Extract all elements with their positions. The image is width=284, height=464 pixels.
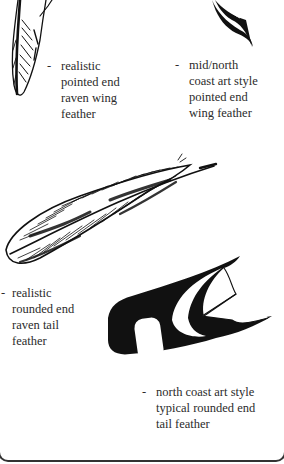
label-line: typical rounded end — [156, 400, 255, 416]
realistic-wing-feather-icon — [12, 0, 52, 95]
label-dash: - — [175, 57, 179, 73]
label-realistic-rounded-tail: - realistic rounded end raven tail feath… — [12, 285, 74, 349]
label-line: feather — [61, 106, 120, 122]
label-line: mid/north — [189, 57, 258, 73]
label-line: realistic — [12, 285, 74, 301]
label-line: north coast art style — [156, 384, 255, 400]
label-line: realistic — [61, 58, 120, 74]
label-line: pointed end — [61, 74, 120, 90]
label-line: rounded end — [12, 301, 74, 317]
label-dash: - — [142, 384, 146, 400]
page-frame-border — [0, 420, 284, 462]
label-line: wing feather — [189, 105, 258, 121]
label-line: feather — [12, 333, 74, 349]
label-line: coast art style — [189, 73, 258, 89]
label-realistic-pointed-wing: - realistic pointed end raven wing feath… — [61, 58, 120, 122]
label-line: pointed end — [189, 89, 258, 105]
label-dash: - — [1, 285, 5, 301]
label-dash: - — [47, 58, 51, 74]
formline-wing-feather-icon — [212, 0, 253, 47]
realistic-tail-feather-icon — [6, 154, 216, 263]
label-mid-north-coast-pointed-wing: - mid/north coast art style pointed end … — [189, 57, 258, 121]
label-line: raven tail — [12, 317, 74, 333]
label-line: raven wing — [61, 90, 120, 106]
formline-tail-feather-icon — [108, 256, 272, 362]
